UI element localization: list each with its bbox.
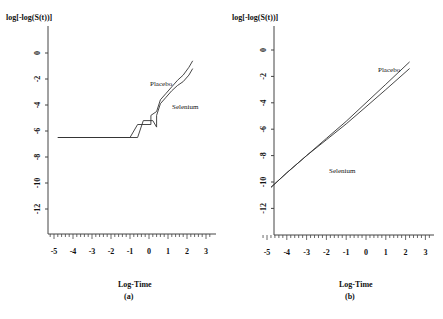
x-tick-label: 1 <box>384 248 388 257</box>
x-tick-label: -4 <box>70 247 77 256</box>
y-tick-label: -10 <box>33 178 42 189</box>
x-tick-label: 0 <box>147 247 151 256</box>
panel-b-placebo-label: Placebo <box>378 66 401 74</box>
x-tick-label: -5 <box>264 248 271 257</box>
x-tick-label: -4 <box>283 248 290 257</box>
y-tick-label: -6 <box>259 126 268 133</box>
y-tick-label: -4 <box>259 99 268 106</box>
x-tick-label: -2 <box>108 247 115 256</box>
x-tick-label: -5 <box>51 247 58 256</box>
y-tick-label: -8 <box>259 152 268 159</box>
x-tick-label: 1 <box>166 247 170 256</box>
y-tick-label: -8 <box>33 154 42 161</box>
panel-a-y-ticks: 0-2-4-6-8-10-12 <box>33 51 48 214</box>
x-tick-label: -1 <box>127 247 134 256</box>
x-tick-label: 3 <box>204 247 208 256</box>
x-tick-label: 0 <box>364 248 368 257</box>
panel-a-x-ticks: -5-4-3-2-10123 <box>50 234 210 256</box>
y-tick-label: 0 <box>33 51 42 55</box>
x-tick-label: -3 <box>89 247 96 256</box>
panel-b-xlabel: Log-Time <box>339 280 373 289</box>
panel-a-series <box>58 61 193 138</box>
y-tick-label: -4 <box>33 102 42 109</box>
chart-canvas: log[-log(S(t))] 0-2-4-6-8-10-12 -5-4-3-2… <box>0 0 443 319</box>
y-tick-label: -12 <box>259 203 268 214</box>
y-tick-label: -6 <box>33 128 42 135</box>
panel-b-caption: (b) <box>345 292 355 301</box>
panel-a-placebo-label: Placebo <box>150 80 173 88</box>
y-tick-label: 0 <box>259 48 268 52</box>
series-line-placebo <box>58 61 193 138</box>
panel-a: log[-log(S(t))] 0-2-4-6-8-10-12 -5-4-3-2… <box>6 13 216 301</box>
y-tick-label: -2 <box>259 73 268 80</box>
panel-b-ylabel: log[-log(S(t))] <box>232 13 279 22</box>
x-tick-label: 3 <box>423 248 427 257</box>
y-tick-label: -10 <box>259 177 268 188</box>
panel-b-x-ticks: -5-4-3-2-10123 <box>263 235 429 257</box>
y-tick-label: -12 <box>33 204 42 215</box>
x-tick-label: 2 <box>185 247 189 256</box>
y-tick-label: -2 <box>33 76 42 83</box>
x-tick-label: -2 <box>323 248 330 257</box>
panel-b: log[-log(S(t))] 0-2-4-6-8-10-12 -5-4-3-2… <box>232 13 434 301</box>
x-tick-label: -1 <box>343 248 350 257</box>
panel-a-caption: (a) <box>124 292 134 301</box>
x-tick-label: -3 <box>303 248 310 257</box>
x-tick-label: 2 <box>404 248 408 257</box>
panel-b-selenium-label: Selenium <box>329 167 356 175</box>
panel-b-y-ticks: 0-2-4-6-8-10-12 <box>259 48 274 214</box>
panel-a-xlabel: Log-Time <box>118 280 152 289</box>
panel-a-ylabel: log[-log(S(t))] <box>6 13 53 22</box>
panel-a-selenium-label: Selenium <box>172 103 199 111</box>
